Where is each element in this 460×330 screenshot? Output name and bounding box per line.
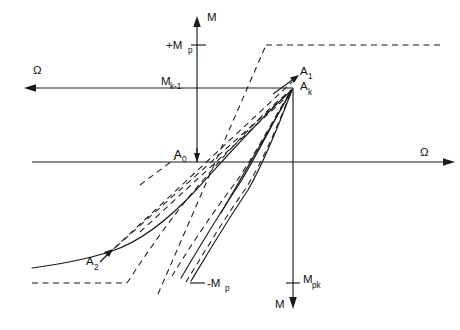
m-k-minus-1-subscript: k-1 — [170, 82, 182, 91]
a2-pointer-arrowhead — [104, 249, 113, 257]
point-a1-subscript: 1 — [308, 72, 313, 81]
m-axis-label-bottom: M — [275, 298, 285, 310]
m-axis-label-top: M — [207, 11, 217, 23]
m-pk-subscript: pk — [312, 281, 322, 290]
primary-solid-curve — [32, 90, 292, 268]
point-ak-subscript: k — [308, 88, 313, 97]
inner-solid-curve-2 — [191, 90, 292, 281]
omega-axis-right-arrowhead — [443, 158, 455, 166]
omega-label-left: Ω — [33, 64, 42, 76]
point-a1-label: A — [300, 65, 308, 77]
dashed-curve-inner — [172, 90, 292, 276]
m-p-positive-label: +M — [166, 39, 182, 51]
m-p-negative-label: -M — [207, 277, 220, 289]
m-p-positive-subscript: p — [188, 46, 193, 55]
a1-pointer-arrowhead — [290, 75, 299, 83]
omega-label-right: Ω — [420, 146, 429, 158]
dashed-secant-a2-to-ak — [108, 90, 292, 254]
m-axis-down-arrowhead — [289, 297, 297, 309]
point-a2-label: A — [86, 255, 94, 267]
point-ak-label: A — [300, 80, 308, 92]
point-a2-subscript: 2 — [94, 263, 99, 272]
figure-root: M +M p M k-1 Ω Ω A 1 A k A 0 A 2 -M p M … — [0, 0, 460, 330]
m-p-negative-subscript: p — [225, 284, 230, 293]
moment-rotation-diagram: M +M p M k-1 Ω Ω A 1 A k A 0 A 2 -M p M … — [0, 0, 460, 330]
m-axis-up-arrowhead — [193, 16, 201, 27]
dashed-secant-a2-to-a1 — [106, 82, 292, 256]
omega-axis-left-arrowhead — [24, 84, 36, 92]
point-a0-label: A — [174, 148, 182, 160]
dashed-curve-outer-left — [127, 90, 291, 283]
point-a0-subscript: 0 — [182, 155, 187, 164]
